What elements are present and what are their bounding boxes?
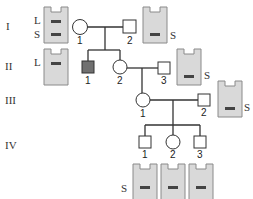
band-S bbox=[184, 75, 194, 78]
band-label-S: S bbox=[204, 69, 210, 81]
individual-number: 1 bbox=[140, 108, 146, 119]
gel-gen1-left bbox=[44, 7, 68, 43]
individual-II-1-affected[interactable] bbox=[82, 61, 94, 73]
individual-number: 1 bbox=[85, 75, 91, 86]
individual-IV-2[interactable] bbox=[166, 135, 180, 149]
individual-number: 3 bbox=[197, 149, 203, 160]
gel-gen3-right bbox=[218, 81, 242, 117]
band-label-S: S bbox=[170, 29, 176, 41]
individual-number: 2 bbox=[127, 35, 133, 46]
band-L bbox=[51, 20, 61, 23]
band-S bbox=[196, 186, 206, 189]
generation-label-II: II bbox=[5, 60, 12, 72]
individual-number: 2 bbox=[117, 75, 123, 86]
individual-II-3[interactable] bbox=[158, 62, 170, 74]
individual-IV-1[interactable] bbox=[139, 136, 151, 148]
band-label-L: L bbox=[34, 56, 41, 68]
gel-gen4-2 bbox=[161, 164, 185, 199]
gel-gen4-1 bbox=[133, 164, 157, 199]
individual-I-1[interactable] bbox=[73, 20, 88, 35]
gel-gen4-3 bbox=[189, 164, 213, 199]
band-S bbox=[225, 107, 235, 110]
individual-number: 1 bbox=[142, 149, 148, 160]
individual-number: 2 bbox=[201, 107, 207, 118]
gel-gen2-left bbox=[44, 49, 68, 85]
generation-label-III: III bbox=[5, 94, 16, 106]
individual-II-2[interactable] bbox=[113, 60, 127, 74]
generation-label-IV: IV bbox=[5, 139, 17, 151]
individual-IV-3[interactable] bbox=[194, 136, 206, 148]
individual-I-2[interactable] bbox=[123, 20, 136, 33]
band-S bbox=[51, 33, 61, 36]
band-S bbox=[168, 186, 178, 189]
individual-number: 3 bbox=[161, 75, 167, 86]
band-label-S: S bbox=[244, 101, 250, 113]
band-S bbox=[150, 33, 160, 36]
band-label-S: S bbox=[121, 182, 127, 194]
individual-III-1[interactable] bbox=[136, 93, 150, 107]
band-S bbox=[140, 186, 150, 189]
band-label-L: L bbox=[34, 14, 41, 26]
individual-III-2[interactable] bbox=[198, 94, 210, 106]
generation-label-I: I bbox=[6, 20, 10, 32]
band-L bbox=[51, 62, 61, 65]
individual-number: 2 bbox=[170, 149, 176, 160]
individual-number: 1 bbox=[77, 35, 83, 46]
gel-gen1-right bbox=[143, 7, 167, 43]
gel-gen2-right bbox=[177, 49, 201, 85]
band-label-S: S bbox=[34, 28, 40, 40]
